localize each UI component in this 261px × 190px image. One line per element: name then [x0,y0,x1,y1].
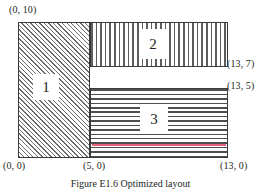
coordinate-label-right-upper: (13, 7) [227,58,254,69]
coordinate-label-bottom-right: (13, 0) [220,160,247,171]
region-2-label: 2 [140,29,166,59]
region-3-accent-line [92,144,226,146]
region-1-label: 1 [33,74,59,100]
optimized-layout-figure: (0, 10) (13, 7) (13, 5) (0, 0) (5, 0) (1… [0,0,261,190]
coordinate-label-bottom-mid: (5, 0) [83,160,105,171]
coordinate-label-right-lower: (13, 5) [227,80,254,91]
coordinate-label-bottom-left: (0, 0) [3,160,25,171]
figure-caption: Figure E1.6 Optimized layout [0,178,261,190]
coordinate-label-top-left: (0, 10) [9,4,36,15]
region-3-label: 3 [140,105,168,133]
